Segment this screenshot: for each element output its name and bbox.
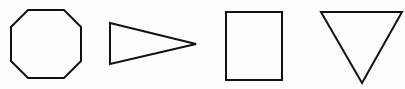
shape-canvas	[0, 0, 405, 89]
shapes-svg	[0, 0, 405, 89]
canvas-background	[0, 0, 405, 89]
